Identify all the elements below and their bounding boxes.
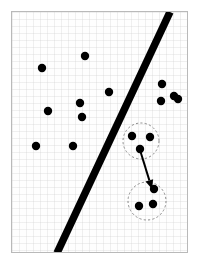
plot-area [11, 11, 188, 253]
figure-root [0, 0, 199, 266]
